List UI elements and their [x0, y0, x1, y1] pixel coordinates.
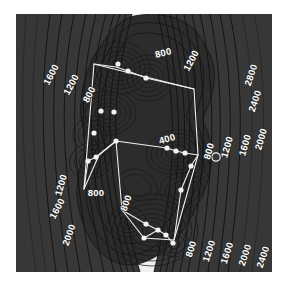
- contour-map-frame: 1600 1200 800 800 1200 2800 2400 2000 16…: [16, 14, 272, 272]
- figure-root: 1600 1200 800 800 1200 2800 2400 2000 16…: [0, 0, 285, 292]
- contour-map-svg: 1600 1200 800 800 1200 2800 2400 2000 16…: [16, 14, 272, 272]
- contour-label: 800: [88, 187, 104, 198]
